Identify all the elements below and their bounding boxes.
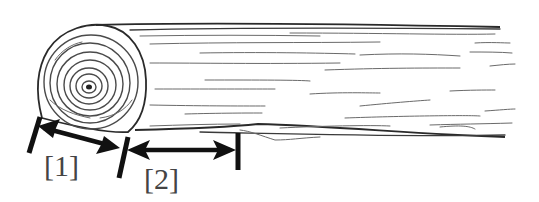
log-illustration: [1] [2]: [0, 0, 539, 202]
tick-middle: [119, 137, 128, 178]
log-body: [96, 24, 515, 140]
dimension-arrow-2: [127, 140, 236, 160]
tick-left: [29, 117, 40, 153]
dimension-label-2: [2]: [144, 162, 179, 195]
log-diagram: [1] [2]: [0, 0, 539, 202]
dimension-label-1: [1]: [44, 149, 79, 182]
log-end-rings: [38, 25, 146, 132]
